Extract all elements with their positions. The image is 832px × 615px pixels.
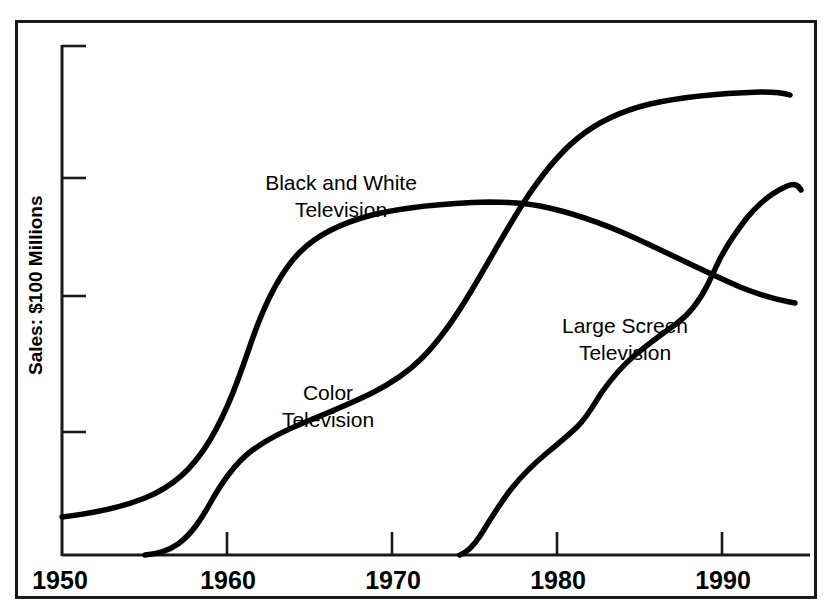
series-label-color-line2: Television [282,408,374,431]
x-tick-label-1970: 1970 [365,566,421,594]
chart-figure: 1950 1960 1970 1980 1990 Sales: $100 Mil… [0,0,832,615]
series-label-bw-line2: Television [295,198,387,221]
x-tick-label-1950: 1950 [32,566,88,594]
television-sales-line-chart: 1950 1960 1970 1980 1990 Sales: $100 Mil… [0,0,832,615]
series-label-large-line1: Large Screen [562,314,688,337]
series-label-color-line1: Color [303,381,353,404]
series-label-bw-line1: Black and White [265,171,417,194]
x-tick-label-1960: 1960 [200,566,256,594]
x-tick-label-1980: 1980 [530,566,586,594]
chart-background [0,0,832,615]
x-tick-label-1990: 1990 [695,566,751,594]
series-label-large-line2: Television [579,341,671,364]
y-axis-title: Sales: $100 Millions [25,195,46,375]
